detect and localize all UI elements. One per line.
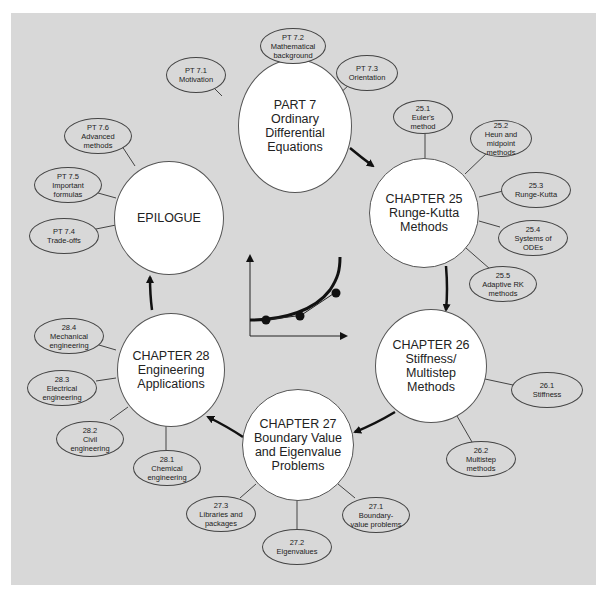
node-27-2: 27.2 Eigenvalues xyxy=(262,529,332,565)
n26-2-line-2: Multistep xyxy=(466,455,496,464)
n25-4-line-2: Systems of xyxy=(514,234,551,243)
ch27-line-1: CHAPTER 27 xyxy=(259,417,336,431)
ch28-line-2: Engineering xyxy=(138,363,205,377)
node-pt7-1: PT 7.1 Motivation xyxy=(166,57,226,93)
pt7-6-line-3: methods xyxy=(84,141,113,150)
pt7-5-line-1: PT 7.5 xyxy=(57,172,79,181)
n25-1-line-1: 25.1 xyxy=(416,104,431,113)
ch27-line-3: and Eigenvalue xyxy=(255,445,341,459)
ch26-line-3: Multistep xyxy=(406,366,456,380)
ch26-line-2: Stiffness/ xyxy=(405,352,456,366)
pt7-5-line-2: Important xyxy=(52,181,84,190)
n25-1-line-2: Euler's xyxy=(412,113,435,122)
ch27-line-4: Problems xyxy=(272,459,325,473)
n28-2-line-2: Civil xyxy=(83,435,97,444)
n27-3-line-3: packages xyxy=(205,519,237,528)
node-ch28: CHAPTER 28 Engineering Applications xyxy=(117,313,225,427)
n25-5-line-2: Adaptive RK xyxy=(482,280,524,289)
pt7-3-line-2: Orientation xyxy=(349,73,386,82)
node-26-2: 26.2 Multistep methods xyxy=(446,441,516,477)
pt7-4-line-1: PT 7.4 xyxy=(53,227,75,236)
node-27-1: 27.1 Boundary- value problems xyxy=(342,497,410,533)
n25-1-line-3: method xyxy=(410,122,435,131)
n27-2-line-1: 27.2 xyxy=(290,538,305,547)
ode-solution-figure xyxy=(250,256,346,336)
pt7-1-line-1: PT 7.1 xyxy=(185,66,207,75)
node-ch26: CHAPTER 26 Stiffness/ Multistep Methods xyxy=(375,309,487,423)
node-28-4: 28.4 Mechanical engineering xyxy=(34,318,104,354)
ch28-line-3: Applications xyxy=(137,377,204,391)
n25-3-line-1: 25.3 xyxy=(529,181,544,190)
node-part7: PART 7 Ordinary Differential Equations xyxy=(238,59,352,193)
node-25-3: 25.3 Runge-Kutta xyxy=(501,172,571,208)
pt7-2-line-2: Mathematical xyxy=(271,42,316,51)
n26-2-line-3: methods xyxy=(467,464,496,473)
n25-2-line-2: Heun and xyxy=(485,130,518,139)
n25-2-line-4: methods xyxy=(487,148,516,157)
n26-1-line-2: Stiffness xyxy=(533,390,562,399)
pt7-6-line-2: Advanced xyxy=(81,132,114,141)
part7-line-1: PART 7 xyxy=(274,98,316,112)
n25-3-line-2: Runge-Kutta xyxy=(515,190,557,199)
n26-1-line-1: 26.1 xyxy=(540,381,555,390)
ch25-line-1: CHAPTER 25 xyxy=(385,192,462,206)
n25-4-line-1: 25.4 xyxy=(526,225,541,234)
n28-4-line-1: 28.4 xyxy=(62,323,77,332)
node-25-1: 25.1 Euler's method xyxy=(393,100,453,134)
pt7-2-line-1: PT 7.2 xyxy=(282,33,304,42)
n27-3-line-1: 27.3 xyxy=(214,501,229,510)
n28-1-line-2: Chemical xyxy=(151,464,182,473)
n28-2-line-3: engineering xyxy=(70,444,109,453)
pt7-2-line-3: background xyxy=(273,51,312,60)
n25-4-line-3: ODEs xyxy=(523,243,543,252)
node-28-2: 28.2 Civil engineering xyxy=(56,421,124,457)
epilogue-line-1: EPILOGUE xyxy=(137,211,201,225)
node-pt7-6: PT 7.6 Advanced methods xyxy=(64,118,132,154)
n28-3-line-2: Electrical xyxy=(47,384,77,393)
n27-3-line-2: Libraries and xyxy=(199,510,242,519)
pt7-1-line-2: Motivation xyxy=(179,75,213,84)
node-28-3: 28.3 Electrical engineering xyxy=(27,370,97,406)
node-25-2: 25.2 Heun and midpoint methods xyxy=(470,120,532,157)
node-pt7-2: PT 7.2 Mathematical background xyxy=(260,28,326,64)
n28-3-line-1: 28.3 xyxy=(55,375,70,384)
n28-4-line-2: Mechanical xyxy=(50,332,88,341)
n27-1-line-3: value problems xyxy=(351,520,402,529)
node-pt7-5: PT 7.5 Important formulas xyxy=(34,167,102,203)
ch25-line-2: Runge-Kutta xyxy=(389,206,459,220)
n25-5-line-3: methods xyxy=(489,289,518,298)
pt7-4-line-2: Trade-offs xyxy=(47,236,81,245)
pt7-3-line-1: PT 7.3 xyxy=(356,64,378,73)
n28-2-line-1: 28.2 xyxy=(83,426,98,435)
part7-line-4: Equations xyxy=(267,140,323,154)
node-pt7-4: PT 7.4 Trade-offs xyxy=(29,218,99,254)
n27-1-line-1: 27.1 xyxy=(369,502,384,511)
pt7-6-line-1: PT 7.6 xyxy=(87,123,109,132)
node-27-3: 27.3 Libraries and packages xyxy=(186,496,256,532)
ch26-line-4: Methods xyxy=(407,380,455,394)
ch27-line-2: Boundary Value xyxy=(254,431,342,445)
part7-line-3: Differential xyxy=(265,126,325,140)
node-26-1: 26.1 Stiffness xyxy=(511,372,583,408)
ch28-line-1: CHAPTER 28 xyxy=(132,349,209,363)
n28-1-line-1: 28.1 xyxy=(160,455,175,464)
n27-1-line-2: Boundary- xyxy=(359,511,394,520)
pt7-5-line-3: formulas xyxy=(54,190,83,199)
ch25-line-3: Methods xyxy=(400,220,448,234)
node-epilogue: EPILOGUE xyxy=(114,161,224,275)
node-pt7-3: PT 7.3 Orientation xyxy=(336,55,398,91)
node-28-1: 28.1 Chemical engineering xyxy=(133,450,201,486)
part7-line-2: Ordinary xyxy=(271,112,319,126)
n27-2-line-2: Eigenvalues xyxy=(277,547,318,556)
node-ch27: CHAPTER 27 Boundary Value and Eigenvalue… xyxy=(242,389,354,501)
node-ch25: CHAPTER 25 Runge-Kutta Methods xyxy=(369,158,479,268)
n28-3-line-3: engineering xyxy=(42,393,81,402)
n28-4-line-3: engineering xyxy=(49,341,88,350)
n25-2-line-1: 25.2 xyxy=(494,121,509,130)
n28-1-line-3: engineering xyxy=(147,473,186,482)
node-25-4: 25.4 Systems of ODEs xyxy=(498,220,568,256)
n26-2-line-1: 26.2 xyxy=(474,446,489,455)
node-25-5: 25.5 Adaptive RK methods xyxy=(469,266,537,302)
n25-2-line-3: midpoint xyxy=(487,139,515,148)
n25-5-line-1: 25.5 xyxy=(496,271,511,280)
